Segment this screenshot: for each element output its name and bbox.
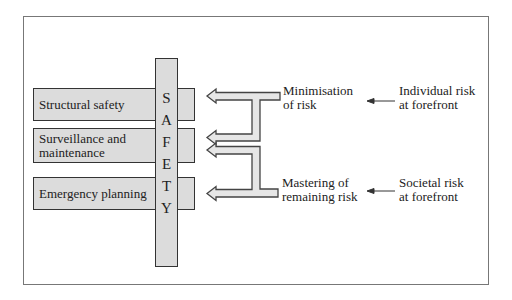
driver-line1: Societal risk xyxy=(399,176,464,190)
minimisation-arrow-icon xyxy=(207,89,280,145)
strategy-line2: of risk xyxy=(283,98,353,112)
strategy-minimisation: Minimisation of risk xyxy=(283,84,353,112)
strategy-line1: Minimisation xyxy=(283,84,353,98)
driver-individual-risk: Individual risk at forefront xyxy=(399,84,475,112)
driver-societal-risk: Societal risk at forefront xyxy=(399,176,464,204)
driver-line2: at forefront xyxy=(399,190,464,204)
driver-line1: Individual risk xyxy=(399,84,475,98)
strategy-line1: Mastering of xyxy=(282,176,357,190)
driver-line2: at forefront xyxy=(399,98,475,112)
strategy-mastering: Mastering of remaining risk xyxy=(282,176,357,204)
block-arrows xyxy=(0,0,512,300)
mastering-arrow-icon xyxy=(207,143,278,201)
strategy-line2: remaining risk xyxy=(282,190,357,204)
